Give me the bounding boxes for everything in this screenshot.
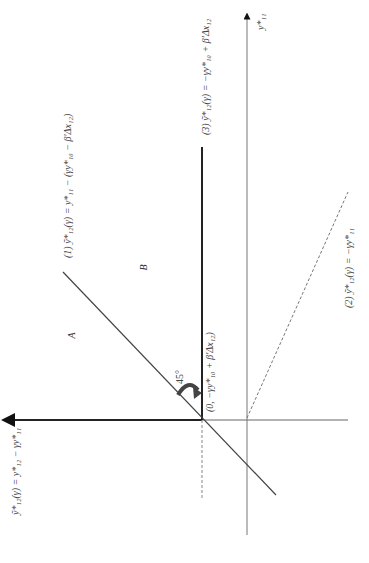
line-2	[247, 192, 348, 418]
line-1-label: (1) ỹ*₁₂(γ) = y*₁₁ − (γy*₁₀ − β′Δx₁₂)	[62, 114, 73, 258]
horizontal-axis-label: ỹ*₁₂(γ) = y*₁₂ − γy*₁₁	[10, 428, 21, 515]
region-b-label: B	[138, 264, 149, 270]
line-3-label: (3) ỹ*₁₂(γ) = −γy*₁₀ + β′Δx₁₂	[200, 19, 211, 135]
line-2-label: (2) ỹ*₁₂(γ) = −γy*₁₁	[343, 228, 354, 308]
vertical-axis-label: y*₁₁	[255, 14, 266, 30]
line-1	[63, 272, 276, 495]
region-a-label: A	[66, 332, 77, 338]
angle-label: 45°	[174, 370, 185, 384]
intersection-point-label: (0, −γy*₁₀ + β′Δx₁₂)	[204, 332, 215, 412]
diagram-canvas	[0, 0, 369, 563]
